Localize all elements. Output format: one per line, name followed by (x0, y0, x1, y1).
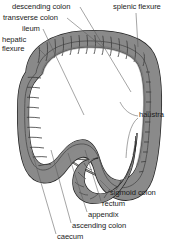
label-descending-colon: descending colon (12, 2, 70, 11)
label-rectum: rectum (102, 199, 125, 208)
label-ascending-colon: ascending colon (72, 221, 126, 230)
label-hepatic-flexure: hepatic flexure (2, 35, 36, 53)
anatomy-figure: descending colon transverse colon ileum … (0, 0, 175, 247)
label-haustra: haustra (139, 110, 164, 119)
label-appendix: appendix (88, 210, 118, 219)
label-sigmoid-colon: sigmoid colon (110, 188, 156, 197)
label-splenic-flexure: splenic flexure (113, 2, 161, 11)
label-transverse-colon: transverse colon (3, 13, 58, 22)
label-ileum: ileum (22, 24, 40, 33)
label-caecum: caecum (57, 232, 83, 241)
